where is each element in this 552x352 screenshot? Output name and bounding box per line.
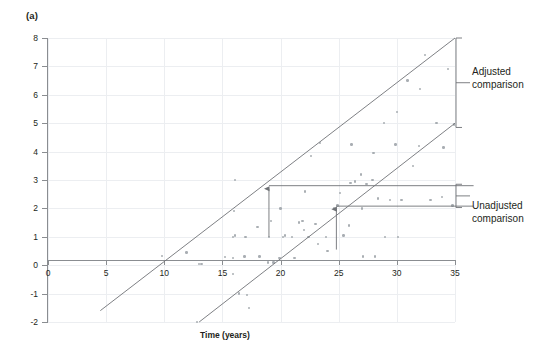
upper-trend [100,38,455,311]
chart-overlay [0,0,552,352]
lower-trend [199,123,455,322]
figure-panel: (a) -2-1012345678 05101520253035 Measure… [0,0,552,352]
adjusted-comparison-label: Adjusted comparison [472,66,524,91]
unadjusted-comparison-label: Unadjusted comparison [472,200,524,225]
